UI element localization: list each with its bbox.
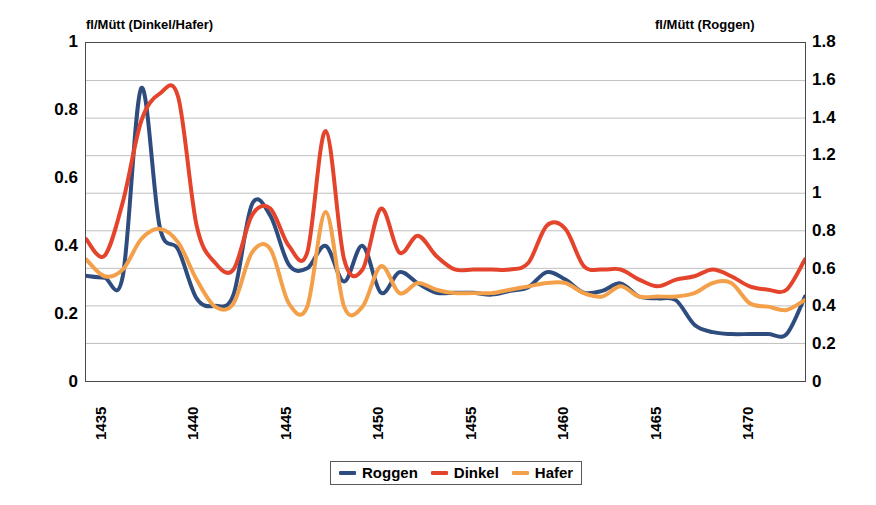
x-tick-label: 1435 (93, 407, 108, 440)
series-line-dinkel (86, 85, 805, 292)
legend-swatch-icon (512, 471, 529, 475)
y-tick-label-right: 1.8 (812, 33, 868, 50)
y-tick-label-left: 0 (22, 373, 78, 390)
legend-item-dinkel[interactable]: Dinkel (431, 465, 499, 480)
y-tick-label-right: 1.4 (812, 109, 868, 126)
legend-label: Roggen (362, 465, 418, 480)
y-tick-label-left: 0.4 (22, 237, 78, 254)
y-tick-label-right: 0.8 (812, 222, 868, 239)
x-tick-label: 1465 (648, 407, 663, 440)
y-tick-label-left: 1 (22, 33, 78, 50)
x-tick-label: 1460 (555, 407, 570, 440)
legend-item-hafer[interactable]: Hafer (512, 465, 573, 480)
y-tick-label-left: 0.6 (22, 169, 78, 186)
x-tick-label: 1440 (185, 407, 200, 440)
left-axis-title: fl/Mütt (Dinkel/Hafer) (86, 17, 213, 32)
y-tick-label-right: 0.2 (812, 335, 868, 352)
y-tick-label-left: 0.8 (22, 101, 78, 118)
y-tick-label-right: 0.6 (812, 260, 868, 277)
y-tick-label-left: 0.2 (22, 305, 78, 322)
y-tick-label-right: 0.4 (812, 297, 868, 314)
y-tick-label-right: 0 (812, 373, 868, 390)
x-tick-label: 1455 (463, 407, 478, 440)
legend-swatch-icon (431, 471, 448, 475)
chart-container: fl/Mütt (Dinkel/Hafer) fl/Mütt (Roggen) … (0, 0, 876, 505)
y-tick-label-right: 1 (812, 184, 868, 201)
chart-legend: RoggenDinkelHafer (330, 461, 582, 485)
right-axis-title: fl/Mütt (Roggen) (655, 17, 755, 32)
y-axis-right: 00.20.40.60.811.21.41.61.8 (812, 0, 868, 505)
legend-label: Hafer (535, 465, 573, 480)
x-tick-label: 1445 (278, 407, 293, 440)
series-lines (86, 85, 805, 337)
legend-swatch-icon (339, 471, 356, 475)
legend-label: Dinkel (454, 465, 499, 480)
legend-item-roggen[interactable]: Roggen (339, 465, 418, 480)
y-axis-left: 00.20.40.60.81 (22, 0, 78, 505)
x-tick-label: 1470 (740, 407, 755, 440)
x-tick-label: 1450 (370, 407, 385, 440)
plot-svg (86, 43, 805, 381)
y-tick-label-right: 1.2 (812, 146, 868, 163)
plot-area (85, 42, 806, 382)
y-tick-label-right: 1.6 (812, 71, 868, 88)
